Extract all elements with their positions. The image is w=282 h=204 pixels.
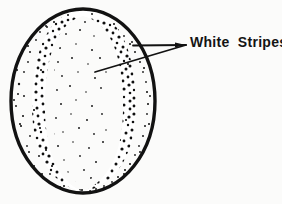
illustration-svg: [0, 0, 282, 204]
figure-container: White Stripes: [0, 0, 282, 204]
leader-lower-prong: [95, 45, 186, 72]
callout-label-white-stripes: White Stripes: [190, 34, 282, 50]
center-white-stripe-stipple: [53, 21, 107, 183]
